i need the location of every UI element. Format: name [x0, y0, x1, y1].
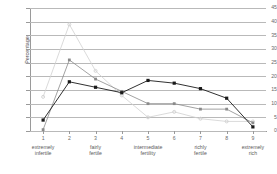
- x-tick-mark: [227, 131, 228, 134]
- x-tick-mark: [122, 131, 123, 134]
- data-point: [68, 80, 71, 83]
- series-layer: [30, 8, 266, 131]
- data-point: [251, 125, 254, 128]
- data-point: [146, 79, 149, 82]
- x-tick-mark: [253, 131, 254, 134]
- x-tick-label: 9: [241, 136, 265, 142]
- x-category-label: richlyfertile: [172, 144, 228, 156]
- x-tick-label: 2: [57, 136, 81, 142]
- data-point: [173, 82, 176, 85]
- x-tick-mark: [200, 131, 201, 134]
- data-point: [251, 121, 254, 124]
- data-point: [147, 102, 150, 105]
- x-tick-label: 7: [188, 136, 212, 142]
- data-point: [94, 86, 97, 89]
- data-point: [173, 102, 176, 105]
- x-tick-label: 3: [84, 136, 108, 142]
- data-point: [225, 97, 228, 100]
- x-tick-label: 6: [162, 136, 186, 142]
- x-tick-label: 5: [136, 136, 160, 142]
- data-point: [120, 91, 123, 94]
- x-tick-mark: [43, 131, 44, 134]
- series-series-medium: [42, 59, 255, 131]
- data-point: [42, 118, 45, 121]
- data-point: [68, 59, 71, 62]
- x-category-label: intermediatefertility: [120, 144, 176, 156]
- x-category-label: extremelyrich: [225, 144, 277, 156]
- x-tick-mark: [69, 131, 70, 134]
- series-line: [43, 24, 253, 121]
- x-tick-label: 4: [110, 136, 134, 142]
- data-point: [199, 87, 202, 90]
- data-point: [199, 108, 202, 111]
- series-series-light: [42, 23, 255, 123]
- chart-container: Percentage 051015202530354045 123456789 …: [0, 0, 277, 174]
- x-tick-label: 1: [31, 136, 55, 142]
- x-category-label: extremelyinfertile: [15, 144, 71, 156]
- x-tick-label: 8: [215, 136, 239, 142]
- x-category-label: fairlyfertile: [68, 144, 124, 156]
- data-point: [94, 78, 97, 81]
- x-tick-mark: [148, 131, 149, 134]
- data-point: [42, 95, 45, 98]
- x-tick-mark: [174, 131, 175, 134]
- plot-area: [30, 8, 266, 131]
- x-tick-mark: [96, 131, 97, 134]
- data-point: [225, 108, 228, 111]
